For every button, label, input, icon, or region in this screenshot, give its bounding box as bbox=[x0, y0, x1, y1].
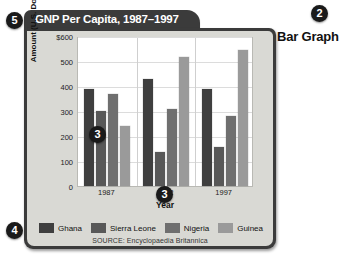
bar bbox=[155, 152, 165, 186]
bar-group bbox=[78, 38, 137, 186]
graph-card: GNP Per Capita, 1987–1997 Amount (U.S. D… bbox=[24, 10, 280, 253]
bar-group bbox=[137, 38, 196, 186]
card-body: Amount (U.S. Dollars) 0100200300400500$6… bbox=[24, 28, 276, 249]
x-axis-tick: 1987 bbox=[98, 188, 115, 197]
y-axis-tick: 200 bbox=[60, 133, 73, 142]
bar-group bbox=[195, 38, 254, 186]
legend-label: Ghana bbox=[58, 224, 82, 233]
legend-label: Sierra Leone bbox=[110, 224, 156, 233]
callout-badge-5: 5 bbox=[6, 12, 23, 29]
callout-badge-2: 2 bbox=[311, 5, 328, 22]
x-axis-tick: 1997 bbox=[215, 188, 232, 197]
bar bbox=[238, 50, 248, 186]
legend-swatch bbox=[165, 223, 180, 233]
source-note: SOURCE: Encyclopaedia Britannica bbox=[27, 237, 273, 244]
callout-badge-3-axis: 3 bbox=[89, 126, 106, 143]
callout-badge-4: 4 bbox=[6, 222, 23, 239]
bar-chart: Amount (U.S. Dollars) 0100200300400500$6… bbox=[33, 37, 267, 217]
legend-label: Nigeria bbox=[184, 224, 209, 233]
legend-label: Guinea bbox=[237, 224, 263, 233]
y-axis-tick: 400 bbox=[60, 83, 73, 92]
legend-swatch bbox=[39, 223, 54, 233]
callout-badge-3-xaxis: 3 bbox=[156, 186, 173, 203]
bar bbox=[179, 57, 189, 186]
bar bbox=[120, 126, 130, 186]
legend-item: Sierra Leone bbox=[91, 223, 156, 233]
bar bbox=[167, 109, 177, 187]
y-axis-tick: $600 bbox=[56, 33, 73, 42]
card-inner-panel: Amount (U.S. Dollars) 0100200300400500$6… bbox=[27, 31, 273, 246]
bar bbox=[108, 94, 118, 187]
chart-title: GNP Per Capita, 1987–1997 bbox=[35, 13, 179, 25]
bar bbox=[96, 111, 106, 186]
legend-swatch bbox=[218, 223, 233, 233]
plot-area bbox=[77, 37, 253, 187]
bar bbox=[143, 79, 153, 187]
y-axis-title: Amount (U.S. Dollars) bbox=[29, 0, 38, 69]
bar bbox=[214, 147, 224, 186]
y-axis-tick: 500 bbox=[60, 58, 73, 67]
legend-swatch bbox=[91, 223, 106, 233]
legend-item: Guinea bbox=[218, 223, 263, 233]
bar bbox=[202, 89, 212, 187]
bar-graph-caption: Bar Graph bbox=[277, 29, 339, 44]
legend-item: Ghana bbox=[39, 223, 82, 233]
chart-legend: GhanaSierra LeoneNigeriaGuinea bbox=[37, 221, 265, 235]
y-axis-tick-labels: 0100200300400500$600 bbox=[43, 37, 73, 187]
bar bbox=[226, 116, 236, 186]
legend-item: Nigeria bbox=[165, 223, 209, 233]
y-axis-tick: 300 bbox=[60, 108, 73, 117]
y-axis-tick: 100 bbox=[60, 158, 73, 167]
y-axis-tick: 0 bbox=[69, 183, 73, 192]
screenshot-root: 5 2 4 Bar Graph GNP Per Capita, 1987–199… bbox=[0, 0, 359, 263]
